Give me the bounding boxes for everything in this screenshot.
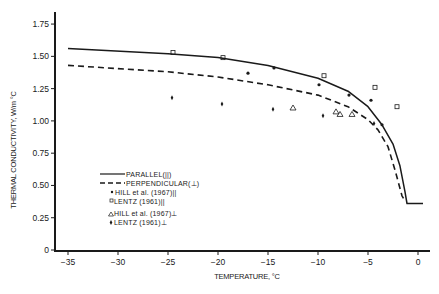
y-tick-label: 1.00 (32, 116, 49, 126)
x-tick-label: −35 (61, 257, 76, 267)
hill-parallel-dot-marker (347, 93, 350, 96)
legend-label-hill-parallel: HILL et al. (1967)|| (115, 189, 176, 197)
hill-parallel-dot-marker (317, 83, 320, 86)
y-tick-label: 0.50 (32, 180, 49, 190)
legend-diamond-marker-icon (110, 220, 113, 225)
legend: PARALLEL(||) PERPENDICULAR(⊥) HILL et al… (100, 171, 199, 227)
hill-parallel-dot-marker (369, 99, 372, 102)
y-tick-label: 0.75 (32, 148, 49, 158)
lentz-perpendicular-diamond-marker (322, 113, 325, 118)
lentz-perpendicular-diamond-marker (221, 102, 224, 107)
x-axis-title: TEMPERATURE, °C (214, 272, 280, 281)
x-tick-label: −30 (111, 257, 126, 267)
legend-label-parallel: PARALLEL(||) (126, 171, 172, 179)
x-tick-label: −15 (261, 257, 276, 267)
hill-perpendicular-triangle-marker (333, 109, 339, 114)
y-tick-label: 1.75 (32, 19, 49, 29)
y-tick-label: 1.50 (32, 51, 49, 61)
legend-label-perpendicular: PERPENDICULAR(⊥) (126, 180, 199, 188)
legend-square-marker-icon (110, 199, 113, 202)
lentz-parallel-square-marker (322, 74, 326, 78)
y-axis-title: THERMAL CONDUCTIVITY, W/m °C (9, 91, 18, 209)
x-tick-label: −5 (363, 257, 373, 267)
lentz-parallel-square-marker (373, 85, 377, 89)
hill-parallel-dot-marker (246, 72, 249, 75)
hill-perpendicular-triangle-marker (290, 105, 296, 110)
legend-dot-marker-icon (111, 191, 113, 193)
parallel-curve (68, 49, 423, 204)
legend-triangle-marker-icon (109, 212, 114, 216)
lentz-perpendicular-diamond-marker (171, 95, 174, 100)
legend-label-hill-perpendicular: HILL et al. (1967)⊥ (114, 210, 178, 218)
perpendicular-curve (68, 65, 405, 201)
lentz-perpendicular-diamond-marker (272, 107, 275, 112)
y-tick-label: 0 (44, 245, 49, 255)
x-tick-label: −10 (311, 257, 326, 267)
hill-perpendicular-triangle-marker (349, 111, 355, 116)
hill-parallel-dot-marker (272, 66, 275, 69)
y-ticks: 00.250.500.751.001.251.501.75 (32, 19, 55, 255)
series-layer (68, 49, 423, 204)
x-tick-label: −20 (211, 257, 226, 267)
x-ticks: −35−30−25−20−15−10−50 (61, 251, 421, 267)
legend-label-lentz-parallel: LENTZ (1961)|| (114, 198, 165, 206)
y-tick-label: 1.25 (32, 84, 49, 94)
x-tick-label: 0 (416, 257, 421, 267)
y-tick-label: 0.25 (32, 213, 49, 223)
legend-label-lentz-perpendicular: LENTZ (1961)⊥ (114, 219, 167, 227)
lentz-parallel-square-marker (395, 105, 399, 109)
thermal-conductivity-chart: 00.250.500.751.001.251.501.75 −35−30−25−… (0, 0, 439, 294)
x-tick-label: −25 (161, 257, 176, 267)
hill-parallel-dot-marker (380, 123, 383, 126)
